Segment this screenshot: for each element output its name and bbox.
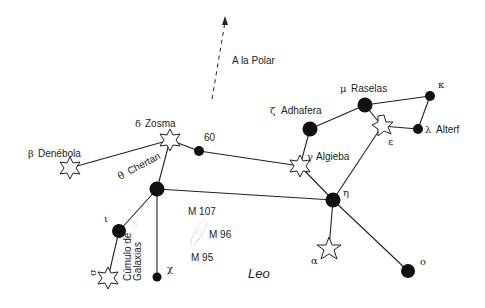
label-adhafera-greek: ζ — [270, 105, 276, 116]
label-denebola-greek: β — [28, 148, 34, 159]
polar-label: A la Polar — [232, 55, 275, 66]
star-adhafera-dot — [303, 122, 318, 137]
label-eta-greek: η — [343, 187, 349, 198]
label-algieba-greek: γ — [307, 151, 313, 162]
star-denebola-icon — [60, 157, 80, 179]
label-omicron-greek: ο — [420, 256, 426, 267]
line-chertan-iota — [119, 189, 157, 231]
cluster-label-line2: Galaxias — [132, 242, 143, 281]
line-epsilon-eta — [333, 126, 382, 200]
star-rasalas-dot — [358, 98, 373, 113]
label-zosma-greek: δ — [135, 118, 141, 129]
line-60-algieba — [199, 151, 300, 166]
dashed-arrow-line — [212, 22, 225, 99]
star-regulus-icon — [317, 237, 341, 259]
label-denebola-name: Denébola — [38, 148, 81, 159]
label-60-name: 60 — [204, 132, 216, 143]
star-chi-dot — [153, 273, 162, 282]
label-rasalas-greek: μ — [340, 83, 347, 94]
label-algieba-name: Algieba — [316, 151, 350, 162]
label-chertan-name: Chertan — [125, 150, 162, 176]
label-epsilon-greek: ε — [388, 136, 393, 147]
label-regulus-greek: α — [311, 255, 318, 266]
label-zosma-name: Zosma — [145, 118, 176, 129]
label-sigma-greek: σ — [87, 269, 98, 276]
cluster-label: Cúmulo de Galaxias — [122, 232, 143, 281]
star-chertan-dot — [150, 182, 165, 197]
label-alterf-name: Alterf — [436, 124, 460, 135]
label-rasalas-name: Raselas — [351, 83, 387, 94]
galaxy-labels: M 107 M 96 M 95 — [188, 206, 232, 263]
leo-constellation-chart: A la Polar β Denébola δ Zosma 60 θ — [0, 0, 485, 308]
line-eta-omicron — [333, 200, 408, 271]
label-m95: M 95 — [191, 252, 214, 263]
star-labels: β Denébola δ Zosma 60 θ Chertan ζ Adhafe… — [28, 79, 460, 276]
star-kappa-dot — [425, 91, 435, 101]
star-eta-dot — [326, 193, 341, 208]
polar-pointer: A la Polar — [212, 16, 275, 99]
label-m96: M 96 — [209, 229, 232, 240]
constellation-title: Leo — [248, 266, 270, 281]
arrowhead-icon — [222, 16, 228, 25]
star-omicron-dot — [401, 264, 415, 278]
label-iota-greek: ι — [104, 213, 108, 224]
line-chertan-eta — [157, 189, 333, 200]
label-chertan-greek: θ — [116, 169, 126, 182]
star-markers — [60, 91, 435, 289]
label-chi-greek: χ — [167, 263, 173, 274]
label-adhafera-name: Adhafera — [281, 105, 322, 116]
label-kappa-greek: κ — [438, 79, 445, 90]
line-rasalas-kappa — [365, 96, 430, 105]
label-alterf-greek: λ — [425, 124, 432, 135]
star-zosma-icon — [160, 129, 180, 151]
star-alterf-dot — [413, 124, 423, 134]
star-60-dot — [194, 146, 204, 156]
star-sigma-icon — [98, 267, 118, 289]
label-m107: M 107 — [188, 206, 216, 217]
